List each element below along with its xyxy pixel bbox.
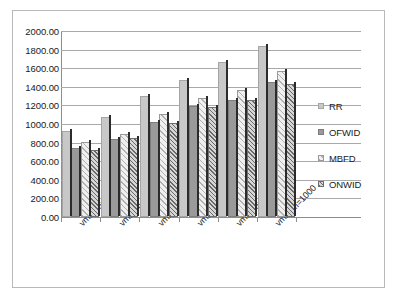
y-axis-tick-label: 1400.00 xyxy=(13,81,59,92)
bar-mbfd-vmnum=1000 xyxy=(277,71,286,217)
bar-mbfd-vmnum=900 xyxy=(237,90,246,217)
x-axis-tick-labels: vmnum=500vmnum=600vmnum=700vmnum=800vmnu… xyxy=(61,221,321,285)
y-axis-tick-label: 1600.00 xyxy=(13,63,59,74)
bar-rr-vmnum=1000 xyxy=(258,46,267,217)
bar-onwid-vmnum=600 xyxy=(129,138,138,217)
bar-ofwid-vmnum=800 xyxy=(189,106,198,217)
bar-mbfd-vmnum=500 xyxy=(81,142,90,217)
bar-rr-vmnum=800 xyxy=(179,80,188,217)
y-axis-tick-label: 0.00 xyxy=(13,212,59,223)
bar-mbfd-vmnum=600 xyxy=(120,134,129,217)
bar-mbfd-vmnum=700 xyxy=(159,114,168,217)
y-axis-tick-label: 1000.00 xyxy=(13,119,59,130)
legend-swatch-icon xyxy=(318,181,324,187)
legend-label: ONWID xyxy=(329,179,361,190)
y-axis-tick-label: 1800.00 xyxy=(13,44,59,55)
bar-ofwid-vmnum=900 xyxy=(228,100,237,217)
bar-rr-vmnum=900 xyxy=(218,62,227,217)
bar-group xyxy=(257,31,296,217)
y-axis-tick-label: 200.00 xyxy=(13,193,59,204)
bar-group xyxy=(139,31,178,217)
bar-rr-vmnum=700 xyxy=(140,96,149,217)
bar-onwid-vmnum=900 xyxy=(247,100,256,217)
y-axis-tick-label: 2000.00 xyxy=(13,26,59,37)
y-axis-tick-label: 600.00 xyxy=(13,156,59,167)
bar-ofwid-vmnum=700 xyxy=(150,122,159,217)
bar-ofwid-vmnum=500 xyxy=(71,148,80,217)
plot-area xyxy=(61,31,296,217)
legend-item-mbfd[interactable]: MBFD xyxy=(318,145,384,171)
legend-item-rr[interactable]: RR xyxy=(318,93,384,119)
chart-container: 2000.001800.001600.001400.001200.001000.… xyxy=(12,10,385,288)
bar-rr-vmnum=600 xyxy=(101,117,110,217)
legend-label: RR xyxy=(329,101,343,112)
bar-group xyxy=(100,31,139,217)
y-axis-tick-labels: 2000.001800.001600.001400.001200.001000.… xyxy=(13,31,59,217)
legend-swatch-icon xyxy=(318,103,324,109)
legend-label: MBFD xyxy=(329,153,356,164)
y-axis-tick-label: 400.00 xyxy=(13,174,59,185)
y-axis-tick-label: 800.00 xyxy=(13,137,59,148)
bar-ofwid-vmnum=600 xyxy=(110,139,119,217)
legend-label: OFWID xyxy=(329,127,360,138)
bar-group xyxy=(61,31,100,217)
bar-onwid-vmnum=800 xyxy=(208,107,217,217)
legend-item-onwid[interactable]: ONWID xyxy=(318,171,384,197)
bar-group xyxy=(218,31,257,217)
bar-mbfd-vmnum=800 xyxy=(198,98,207,218)
bar-onwid-vmnum=1000 xyxy=(286,84,295,217)
chart-legend: RROFWIDMBFDONWID xyxy=(318,93,384,197)
bar-ofwid-vmnum=1000 xyxy=(267,82,276,217)
bar-group xyxy=(179,31,218,217)
y-axis-tick-label: 1200.00 xyxy=(13,100,59,111)
legend-item-ofwid[interactable]: OFWID xyxy=(318,119,384,145)
legend-swatch-icon xyxy=(318,129,324,135)
bar-rr-vmnum=500 xyxy=(62,131,71,217)
bar-onwid-vmnum=500 xyxy=(90,150,99,217)
legend-swatch-icon xyxy=(318,155,324,161)
bar-onwid-vmnum=700 xyxy=(169,123,178,217)
